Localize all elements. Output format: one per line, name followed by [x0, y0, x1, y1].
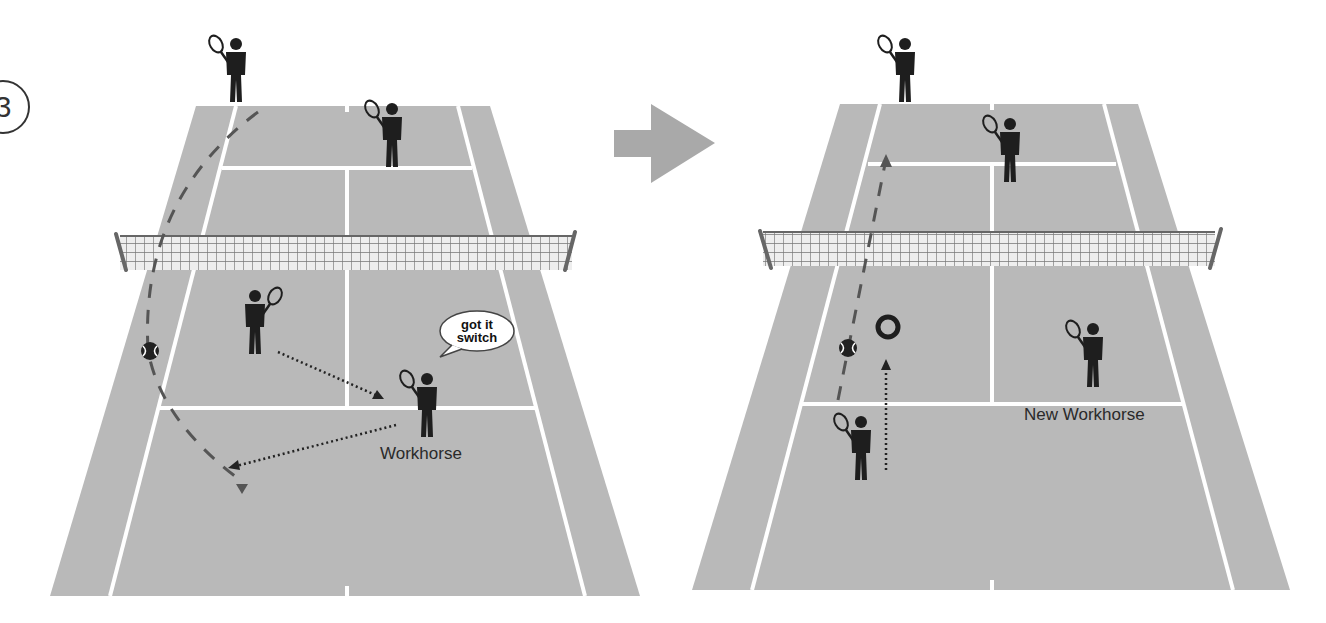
player-far-baseline-before	[206, 33, 246, 102]
speech-line-2: switch	[455, 331, 499, 344]
speech-bubble-text: got it switch	[455, 318, 499, 344]
new-workhorse-label: New Workhorse	[1024, 405, 1145, 425]
tennis-ball-icon	[839, 339, 857, 357]
tennis-ball-icon	[141, 342, 159, 360]
court-after	[692, 104, 1290, 590]
player-far-baseline-after	[875, 33, 915, 102]
court-before	[50, 106, 640, 596]
net-before	[116, 232, 575, 270]
right-arrow-icon	[614, 104, 715, 183]
net-after	[760, 229, 1221, 268]
workhorse-label: Workhorse	[380, 444, 462, 464]
